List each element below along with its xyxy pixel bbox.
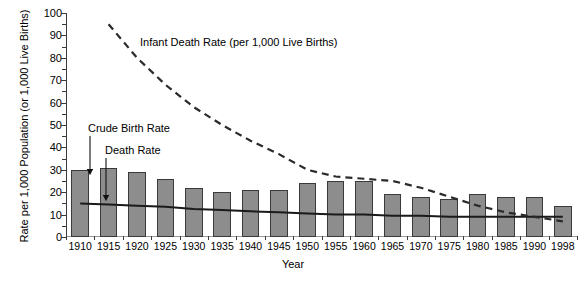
y-tick-label: 30 (36, 164, 62, 175)
x-tick-label: 1915 (97, 240, 120, 252)
y-tick-mark (61, 170, 66, 171)
x-tick-label: 1970 (409, 240, 432, 252)
y-tick-label: 40 (36, 142, 62, 153)
annotation-infant-death-rate: Infant Death Rate (per 1,000 Live Births… (140, 36, 338, 48)
chart-container: Rate per 1,000 Population (or 1,000 Live… (0, 0, 586, 287)
x-tick-mark (520, 236, 521, 240)
x-tick-label: 1990 (523, 240, 546, 252)
x-tick-label: 1980 (466, 240, 489, 252)
x-tick-mark (151, 236, 152, 240)
y-tick-label: 60 (36, 97, 62, 108)
x-tick-label: 1960 (352, 240, 375, 252)
y-minor-tick-mark (62, 159, 66, 160)
y-tick-mark (61, 125, 66, 126)
x-tick-mark (378, 236, 379, 240)
y-tick-mark (61, 215, 66, 216)
x-tick-label: 1985 (494, 240, 517, 252)
y-minor-tick-mark (62, 24, 66, 25)
y-minor-tick-mark (62, 136, 66, 137)
y-tick-label: 70 (36, 75, 62, 86)
x-tick-mark (577, 236, 578, 240)
infant-death-rate-line (109, 24, 563, 221)
x-tick-mark (66, 236, 67, 240)
x-tick-mark (123, 236, 124, 240)
annotation-crude-birth-rate: Crude Birth Rate (88, 122, 170, 134)
y-minor-tick-mark (62, 114, 66, 115)
y-minor-tick-mark (62, 47, 66, 48)
x-tick-label: 1910 (69, 240, 92, 252)
y-tick-label: 80 (36, 52, 62, 63)
x-tick-mark (435, 236, 436, 240)
x-tick-mark (180, 236, 181, 240)
x-tick-label: 1965 (381, 240, 404, 252)
y-axis-tick-labels: 0102030405060708090100 (34, 0, 62, 287)
x-tick-mark (350, 236, 351, 240)
y-tick-mark (61, 192, 66, 193)
x-tick-label: 1945 (267, 240, 290, 252)
x-tick-mark (265, 236, 266, 240)
x-tick-mark (208, 236, 209, 240)
y-tick-mark (61, 13, 66, 14)
x-tick-mark (236, 236, 237, 240)
x-tick-label: 1975 (438, 240, 461, 252)
x-axis-tick-labels: 1910191519201925193019351940194519501955… (66, 240, 577, 256)
x-tick-mark (322, 236, 323, 240)
x-axis-title: Year (0, 258, 586, 270)
y-tick-label: 20 (36, 187, 62, 198)
y-tick-label: 10 (36, 209, 62, 220)
x-tick-mark (94, 236, 95, 240)
y-tick-label: 0 (36, 232, 62, 243)
x-tick-label: 1930 (182, 240, 205, 252)
y-axis-title: Rate per 1,000 Population (or 1,000 Live… (18, 6, 30, 246)
x-tick-mark (293, 236, 294, 240)
x-tick-label: 1925 (154, 240, 177, 252)
x-tick-label: 1920 (125, 240, 148, 252)
x-tick-mark (492, 236, 493, 240)
death-rate-line (80, 203, 563, 216)
x-tick-mark (463, 236, 464, 240)
y-minor-tick-mark (62, 69, 66, 70)
y-tick-mark (61, 80, 66, 81)
y-tick-label: 90 (36, 30, 62, 41)
x-tick-label: 1950 (296, 240, 319, 252)
x-tick-mark (549, 236, 550, 240)
y-minor-tick-mark (62, 203, 66, 204)
y-tick-label: 50 (36, 120, 62, 131)
y-minor-tick-mark (62, 91, 66, 92)
annotation-death-rate: Death Rate (105, 144, 161, 156)
y-tick-mark (61, 58, 66, 59)
y-tick-mark (61, 103, 66, 104)
y-tick-label: 100 (36, 8, 62, 19)
y-tick-mark (61, 147, 66, 148)
y-tick-mark (61, 35, 66, 36)
x-tick-label: 1998 (551, 240, 574, 252)
y-minor-tick-mark (62, 226, 66, 227)
x-tick-label: 1940 (239, 240, 262, 252)
y-minor-tick-mark (62, 181, 66, 182)
x-tick-mark (407, 236, 408, 240)
x-tick-label: 1955 (324, 240, 347, 252)
x-tick-label: 1935 (210, 240, 233, 252)
